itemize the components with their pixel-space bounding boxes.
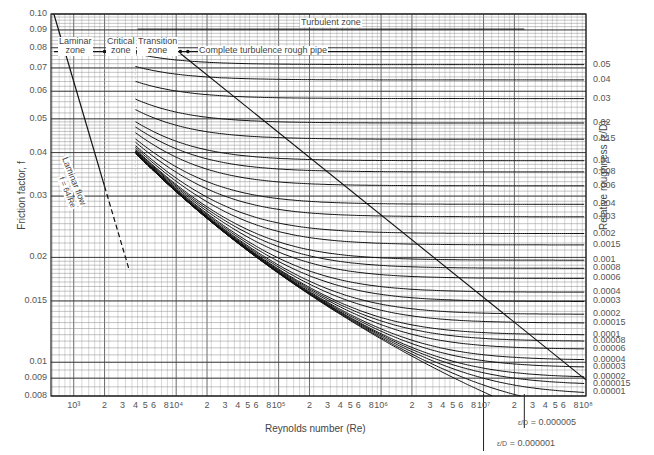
x-tick-label: 6	[253, 401, 258, 410]
x-tick-label: 4	[543, 401, 548, 410]
x-tick-label: 2	[205, 401, 210, 410]
x-axis-title: Reynolds number (Re)	[265, 423, 366, 434]
x-tick-label: 10³	[67, 401, 80, 410]
roughness-label: 0.00003	[593, 362, 626, 371]
roughness-label: 0.0003	[593, 296, 621, 305]
x-tick-label: 10⁷	[477, 401, 490, 410]
x-tick-label: 4	[235, 401, 240, 410]
x-tick-label: 8	[471, 401, 476, 410]
x-tick-label: 8	[369, 401, 374, 410]
x-tick-label: 2	[307, 401, 312, 410]
x-tick-label: 6	[458, 401, 463, 410]
y-tick-label: 0.02	[29, 252, 47, 261]
roughness-label: 0.002	[593, 229, 616, 238]
x-tick-label: 5	[143, 401, 148, 410]
roughness-label: 0.00006	[593, 344, 626, 353]
x-tick-label: 3	[223, 401, 228, 410]
roughness-label: 0.04	[593, 75, 611, 84]
x-tick-label: 5	[450, 401, 455, 410]
x-tick-label: 2	[102, 401, 107, 410]
y-tick-label: 0.008	[24, 391, 47, 400]
y-axis-title: Friction factor, f	[16, 151, 27, 241]
callout-e-d-1e-6: ε/D = 0.000001	[497, 439, 555, 448]
x-tick-label: 5	[553, 401, 558, 410]
x-tick-label: 4	[440, 401, 445, 410]
roughness-label: 0.004	[593, 199, 616, 208]
x-tick-label: 6	[356, 401, 361, 410]
x-tick-label: 5	[245, 401, 250, 410]
zone-laminar: Laminarzone	[58, 37, 93, 56]
x-tick-label: 5	[348, 401, 353, 410]
x-tick-label: 2	[409, 401, 414, 410]
x-tick-label: 8	[164, 401, 169, 410]
roughness-label: 0.0006	[593, 273, 621, 282]
roughness-label: 0.008	[593, 167, 616, 176]
x-tick-label: 3	[325, 401, 330, 410]
y-tick-label: 0.07	[29, 63, 47, 72]
roughness-label: 0.02	[593, 118, 611, 127]
x-tick-label: 10⁵	[272, 401, 286, 410]
y-tick-label: 0.08	[29, 43, 47, 52]
zone-turbulent: Turbulent zone	[300, 18, 362, 27]
callout-e-d-5e-6: ε/D = 0.000005	[518, 418, 576, 427]
y-tick-label: 0.015	[24, 296, 47, 305]
roughness-label: 0.00015	[593, 318, 626, 327]
roughness-label: 0.05	[593, 60, 611, 69]
y-tick-label: 0.04	[29, 148, 47, 157]
x-tick-label: 4	[338, 401, 343, 410]
x-tick-label: 10⁸	[579, 401, 593, 410]
roughness-label: 0.00001	[593, 387, 626, 396]
roughness-label: 0.0015	[593, 240, 621, 249]
y-tick-label: 0.09	[29, 25, 47, 34]
x-tick-label: 8	[574, 401, 579, 410]
x-tick-label: 4	[133, 401, 138, 410]
x-tick-label: 10⁴	[169, 401, 183, 410]
roughness-label: 0.03	[593, 94, 611, 103]
y-tick-label: 0.10	[29, 9, 47, 18]
y-tick-label: 0.06	[29, 86, 47, 95]
x-tick-label: 2	[512, 401, 517, 410]
y-tick-label: 0.03	[29, 191, 47, 200]
roughness-label: 0.0008	[593, 263, 621, 272]
x-tick-label: 3	[530, 401, 535, 410]
x-tick-label: 6	[151, 401, 156, 410]
y-tick-label: 0.05	[29, 114, 47, 123]
x-tick-label: 10⁶	[374, 401, 388, 410]
x-tick-label: 3	[120, 401, 125, 410]
x-tick-label: 8	[266, 401, 271, 410]
y-tick-label: 0.009	[24, 373, 47, 382]
zone-complete-turbulence: Complete turbulence rough pipe	[198, 46, 328, 55]
moody-chart	[0, 0, 654, 455]
y-tick-label: 0.01	[29, 357, 47, 366]
zone-critical: Criticalzone	[106, 37, 136, 56]
roughness-label: 0.006	[593, 181, 616, 190]
roughness-label: 0.003	[593, 212, 616, 221]
roughness-label: 0.015	[593, 134, 616, 143]
x-tick-label: 6	[561, 401, 566, 410]
x-tick-label: 3	[427, 401, 432, 410]
roughness-label: 0.01	[593, 156, 611, 165]
zone-transition: Transitionzone	[137, 37, 178, 56]
